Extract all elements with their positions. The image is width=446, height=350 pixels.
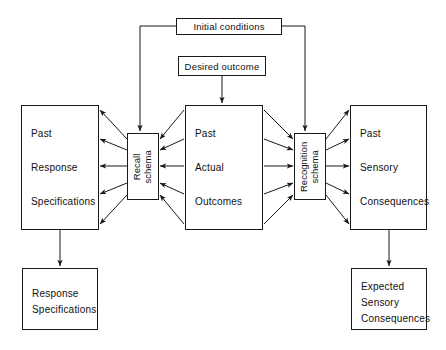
edge-recall-to-prs-5 xyxy=(100,195,127,224)
edge-outcomes-to-recognition-4 xyxy=(264,183,293,194)
schema-diagram: Initial conditions Desired outcome Past … xyxy=(0,0,446,350)
psc-line-sensory: Sensory xyxy=(360,162,398,173)
node-initial-conditions[interactable]: Initial conditions xyxy=(176,18,282,35)
edge-outcomes-to-recall-2 xyxy=(160,139,184,150)
edge-recognition-to-psc-1 xyxy=(326,110,349,139)
recognition-schema-line1: Recognition xyxy=(298,141,309,191)
recall-schema-label: Recall schema xyxy=(132,150,154,183)
prs-line-specifications: Specifications xyxy=(31,196,96,207)
esco-line-sensory: Sensory xyxy=(361,297,399,308)
edge-recognition-to-psc-2 xyxy=(326,139,349,150)
edge-recall-to-prs-1 xyxy=(100,110,127,139)
edge-outcomes-to-recognition-2 xyxy=(264,139,293,150)
edge-recognition-to-psc-5 xyxy=(326,195,349,224)
initial-conditions-label: Initial conditions xyxy=(193,21,264,32)
esco-line-consequences: Consequences xyxy=(361,313,430,324)
pao-line-actual: Actual xyxy=(195,162,224,173)
recall-schema-line1: Recall xyxy=(131,153,142,179)
recall-schema-line2: schema xyxy=(142,150,153,183)
edge-recognition-to-psc-4 xyxy=(326,183,349,194)
edge-recall-to-prs-4 xyxy=(100,183,127,194)
node-desired-outcome[interactable]: Desired outcome xyxy=(178,56,266,76)
esco-line-expected: Expected xyxy=(361,281,404,292)
edge-outcomes-to-recall-1 xyxy=(160,110,184,139)
rso-line-specifications: Specifications xyxy=(32,304,97,315)
edge-outcomes-to-recall-4 xyxy=(160,183,184,194)
prs-line-response: Response xyxy=(31,162,78,173)
node-response-specifications-output[interactable]: Response Specifications xyxy=(22,268,98,330)
psc-line-consequences: Consequences xyxy=(360,196,429,207)
edge-outcomes-to-recall-5 xyxy=(160,195,184,224)
edge-outcomes-to-recognition-1 xyxy=(264,110,293,139)
edge-outcomes-to-recognition-5 xyxy=(264,195,293,224)
edge-initial-to-recognition xyxy=(282,26,305,131)
edge-recall-to-prs-2 xyxy=(100,139,127,150)
node-expected-sensory-consequences-output[interactable]: Expected Sensory Consequences xyxy=(351,268,427,330)
prs-line-past: Past xyxy=(31,128,52,139)
pao-line-past: Past xyxy=(195,128,216,139)
desired-outcome-label: Desired outcome xyxy=(185,61,260,72)
edge-initial-to-recall xyxy=(140,26,176,131)
psc-line-past: Past xyxy=(360,128,381,139)
recognition-schema-line2: schema xyxy=(309,150,320,183)
node-recognition-schema[interactable]: Recognition schema xyxy=(294,133,326,200)
rso-line-response: Response xyxy=(32,288,79,299)
node-past-response-specifications[interactable]: Past Response Specifications xyxy=(21,105,99,230)
node-recall-schema[interactable]: Recall schema xyxy=(127,133,159,200)
node-past-actual-outcomes[interactable]: Past Actual Outcomes xyxy=(185,105,263,230)
pao-line-outcomes: Outcomes xyxy=(195,196,242,207)
recognition-schema-label: Recognition schema xyxy=(299,141,321,191)
node-past-sensory-consequences[interactable]: Past Sensory Consequences xyxy=(350,105,427,230)
